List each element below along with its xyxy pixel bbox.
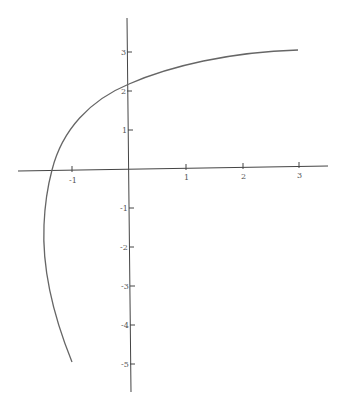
svg-text:1: 1: [184, 173, 189, 182]
data-curve: [44, 50, 298, 362]
svg-text:-4: -4: [121, 321, 129, 330]
svg-text:1: 1: [122, 126, 127, 135]
svg-text:-1: -1: [69, 176, 77, 185]
chart-svg: -1 1 2 3 3 2 1 -1 -2 -3 -4 -5: [0, 0, 342, 411]
svg-text:3: 3: [297, 171, 302, 180]
x-axis: [18, 162, 328, 172]
tick-labels: -1 1 2 3 3 2 1 -1 -2 -3 -4 -5: [69, 48, 302, 369]
svg-text:3: 3: [121, 48, 126, 57]
plot-area: -1 1 2 3 3 2 1 -1 -2 -3 -4 -5: [0, 0, 342, 411]
svg-text:-5: -5: [121, 360, 129, 369]
svg-text:2: 2: [241, 172, 246, 181]
svg-text:-2: -2: [120, 243, 128, 252]
svg-text:-1: -1: [120, 204, 128, 213]
svg-text:-3: -3: [121, 282, 129, 291]
svg-text:2: 2: [121, 87, 126, 96]
y-axis: [127, 18, 135, 392]
